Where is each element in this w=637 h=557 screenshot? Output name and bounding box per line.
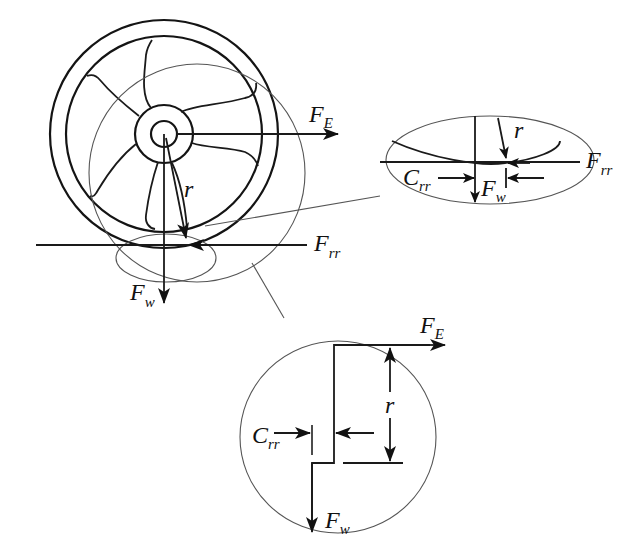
contact-detail-ellipse: Crr Fw r Frr bbox=[380, 116, 613, 205]
r-label: r bbox=[184, 176, 194, 202]
leader-to-ellipse-detail bbox=[205, 196, 380, 226]
fe-label: FE bbox=[308, 101, 333, 131]
frr-label: Frr bbox=[313, 230, 341, 261]
detail-ellipse-fw-label: Fw bbox=[480, 175, 506, 205]
detail-ellipse-crr-label: Crr bbox=[403, 164, 431, 194]
contact-patch-highlight bbox=[116, 234, 216, 282]
lever-detail-circle: r Crr FE Fw bbox=[240, 312, 445, 537]
leader-to-circle-detail bbox=[252, 263, 284, 318]
detail-ellipse-r-label: r bbox=[514, 117, 524, 143]
rolling-resistance-diagram: FE r Frr Fw Crr Fw r Frr r bbox=[0, 0, 637, 557]
detail-circle-r-label: r bbox=[385, 392, 395, 418]
detail-circle-crr-label: Crr bbox=[252, 422, 280, 452]
r-arrow bbox=[166, 138, 186, 238]
detail-circle-fw-label: Fw bbox=[324, 507, 350, 537]
fw-label: Fw bbox=[129, 279, 155, 310]
detail-circle-fe-label: FE bbox=[419, 312, 444, 342]
